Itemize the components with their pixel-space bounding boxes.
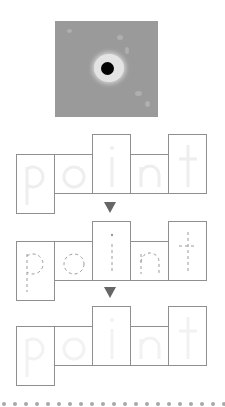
- separator-dot: [24, 402, 28, 406]
- letter-t-glyph: [169, 222, 208, 282]
- separator-dot: [145, 402, 149, 406]
- separator-dot: [2, 402, 6, 406]
- separator-dot: [134, 402, 138, 406]
- separator-dot: [13, 402, 17, 406]
- photo-speck: [117, 35, 123, 40]
- letter-o-glyph: [55, 155, 94, 195]
- letter-n-glyph: [131, 242, 170, 282]
- letter-box-o: [54, 241, 93, 281]
- letter-box-t: [168, 306, 207, 366]
- photo-speck: [125, 47, 129, 54]
- separator-dot: [79, 402, 83, 406]
- letter-n-glyph: [131, 327, 170, 367]
- separator-dot: [200, 402, 204, 406]
- letter-box-n: [130, 241, 169, 281]
- letter-box-p: [16, 241, 55, 301]
- down-arrow-icon: [104, 287, 116, 298]
- letter-box-n: [130, 154, 169, 194]
- separator-dot: [68, 402, 72, 406]
- point-photo: [55, 21, 158, 117]
- letter-i-glyph: [93, 135, 132, 195]
- separator-dot: [46, 402, 50, 406]
- photo-speck: [145, 101, 150, 107]
- separator-dot: [189, 402, 193, 406]
- letter-box-p: [16, 154, 55, 214]
- letter-box-t: [168, 221, 207, 281]
- separator-dot: [167, 402, 171, 406]
- letter-box-o: [54, 154, 93, 194]
- letter-p-glyph: [17, 327, 56, 387]
- separator-dot: [101, 402, 105, 406]
- letter-o-glyph: [55, 327, 94, 367]
- letter-box-i: [92, 221, 131, 281]
- letter-box-o: [54, 326, 93, 366]
- letter-t-glyph: [169, 135, 208, 195]
- letter-n-glyph: [131, 155, 170, 195]
- letter-box-i: [92, 306, 131, 366]
- separator-dot: [222, 402, 225, 406]
- photo-speck: [135, 91, 142, 96]
- separator-dot: [57, 402, 61, 406]
- separator-dot: [178, 402, 182, 406]
- separator-dot: [35, 402, 39, 406]
- letter-o-glyph: [55, 242, 94, 282]
- letter-i-glyph: [93, 307, 132, 367]
- letter-box-p: [16, 326, 55, 386]
- dotted-separator: [2, 402, 224, 407]
- letter-row-3: [0, 306, 225, 386]
- down-arrow-icon: [104, 202, 116, 213]
- letter-box-i: [92, 134, 131, 194]
- letter-box-t: [168, 134, 207, 194]
- separator-dot: [211, 402, 215, 406]
- letter-i-glyph: [93, 222, 132, 282]
- letter-p-glyph: [17, 242, 56, 302]
- letter-p-glyph: [17, 155, 56, 215]
- letter-t-glyph: [169, 307, 208, 367]
- separator-dot: [90, 402, 94, 406]
- separator-dot: [112, 402, 116, 406]
- black-point-dot: [101, 62, 114, 75]
- letter-box-n: [130, 326, 169, 366]
- photo-speck: [67, 29, 72, 33]
- separator-dot: [156, 402, 160, 406]
- separator-dot: [123, 402, 127, 406]
